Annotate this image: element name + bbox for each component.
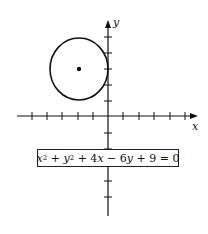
- eq-rest-a: + 4: [74, 152, 97, 165]
- eq-rest-b: − 6: [104, 152, 127, 165]
- y-axis-arrow-icon: [105, 20, 111, 28]
- x-axis-arrow-icon: [190, 113, 198, 119]
- eq-rest-c: + 9 = 0: [133, 152, 179, 165]
- y-axis-label: y: [113, 16, 119, 29]
- eq-plus: +: [47, 152, 63, 165]
- x-axis-label: x: [192, 120, 198, 133]
- circle-center-point: [77, 67, 81, 71]
- equation-box: x2 + y2 + 4x − 6y + 9 = 0: [37, 149, 179, 167]
- coordinate-plane: [0, 0, 208, 234]
